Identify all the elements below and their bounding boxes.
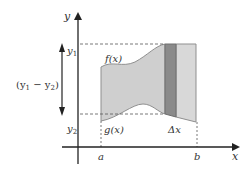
y1-label: y1 [66,45,77,58]
arrow-down-icon [59,107,65,116]
area-between-curves-diagram: y x y1 y2 (y1 − y2) f(x) g(x) Δx a b [0,0,251,178]
representative-strip [165,44,176,117]
g-of-x-label: g(x) [104,124,124,135]
b-label: b [194,151,200,162]
delta-x-label: Δx [167,124,181,135]
x-axis-label: x [232,150,239,163]
difference-label: (y1 − y2) [16,79,59,92]
arrow-up-icon [59,43,65,52]
f-of-x-label: f(x) [104,53,122,64]
y2-label: y2 [66,123,77,136]
y-axis-label: y [63,10,71,23]
a-label: a [98,151,104,162]
region-right-portion [176,44,196,122]
